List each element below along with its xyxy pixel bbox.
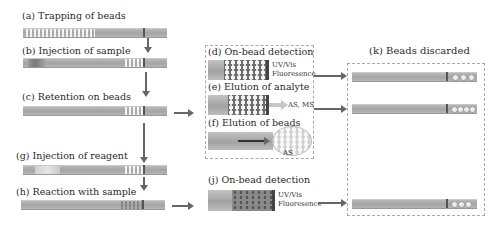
- detector-uvvis-j: UV/Vis: [278, 191, 302, 200]
- arrow-c-to-d: [174, 112, 188, 114]
- step-d-label: (d) On-bead detection: [208, 46, 313, 57]
- arrow-d-to-k: [314, 75, 341, 77]
- step-a-label: (a) Trapping of beads: [22, 10, 126, 21]
- step-g-label: (g) Injection of reagent: [16, 150, 128, 161]
- arrow-c-to-g: [143, 123, 145, 158]
- step-k-label: (k) Beads discarded: [369, 45, 470, 56]
- arrow-e-to-k: [314, 108, 341, 110]
- arrow-h-to-j: [172, 205, 188, 207]
- arrow-j-to-k: [318, 202, 341, 204]
- step-j-label: (j) On-bead detection: [208, 174, 310, 185]
- step-b-label: (b) Injection of sample: [22, 45, 131, 56]
- detector-fluorescence-d: Fluoresence: [272, 70, 316, 79]
- right-dashed-box: [347, 63, 485, 216]
- detector-uvvis-d: UV/Vis: [272, 61, 296, 70]
- detector-fluorescence-j: Fluoresence: [278, 200, 322, 209]
- detector-as-ms: AS, MS: [288, 101, 314, 110]
- arrow-a-to-b: [147, 38, 149, 48]
- step-c-label: (c) Retention on beads: [22, 91, 131, 102]
- step-e-label: (e) Elution of analyte: [208, 81, 309, 92]
- arrow-g-to-h: [143, 177, 145, 186]
- arrow-b-to-c: [145, 72, 147, 92]
- step-h-label: (h) Reaction with sample: [16, 186, 136, 197]
- detector-as-f: AS: [283, 149, 293, 158]
